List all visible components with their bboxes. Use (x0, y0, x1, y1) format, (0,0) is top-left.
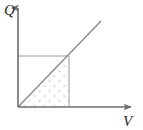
qv-graph-svg: Q V (0, 0, 143, 130)
y-axis-label: Q (4, 2, 15, 18)
qv-graph-figure: Q V (0, 0, 143, 130)
x-axis-label: V (123, 113, 134, 129)
